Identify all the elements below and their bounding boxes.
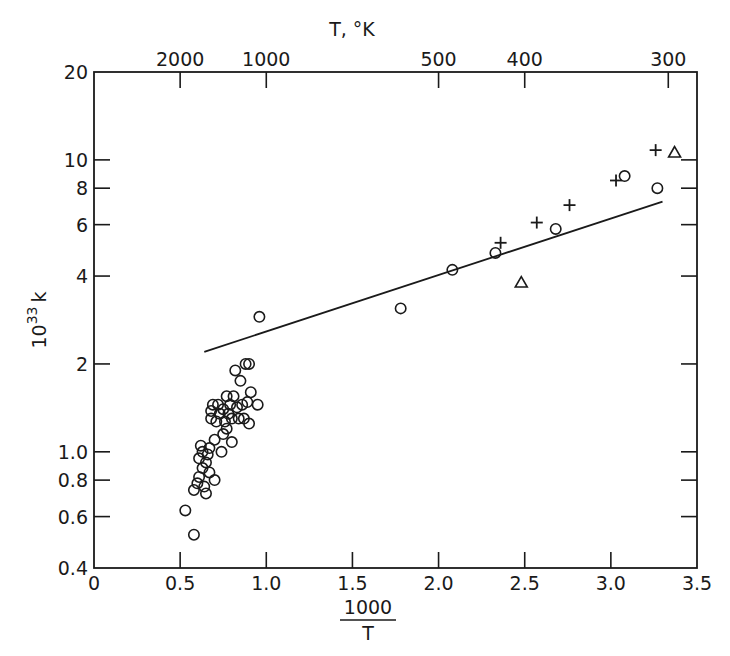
- y-tick-label: 20: [64, 61, 88, 83]
- y-axis-label: 1033k: [24, 291, 50, 348]
- circle-marker: [189, 530, 199, 540]
- circle-marker: [227, 437, 237, 447]
- svg-text:1033k: 1033k: [24, 291, 50, 348]
- top-tick-label: 500: [420, 48, 456, 70]
- circle-marker: [228, 391, 238, 401]
- plus-marker: [531, 217, 543, 229]
- circle-marker: [216, 447, 226, 457]
- top-axis-label: T, °K: [328, 18, 375, 40]
- circle-marker: [180, 505, 190, 515]
- x-label-denominator: T: [361, 622, 374, 644]
- y-label-variable: k: [28, 291, 50, 302]
- y-tick-label: 2: [76, 353, 88, 375]
- plot-border: [94, 72, 697, 568]
- data-points: [180, 144, 680, 540]
- plus-marker: [564, 199, 576, 211]
- x-tick-label: 1.5: [337, 572, 367, 594]
- x-tick-label: 3.0: [596, 572, 626, 594]
- axis-ticks: [94, 72, 697, 568]
- circle-marker: [221, 424, 231, 434]
- y-tick-label: 8: [76, 177, 88, 199]
- triangle-marker: [515, 277, 527, 288]
- triangle-marker: [669, 146, 681, 157]
- circle-marker: [551, 224, 561, 234]
- circle-marker: [652, 183, 662, 193]
- top-tick-label: 300: [650, 48, 686, 70]
- y-tick-label: 10: [64, 149, 88, 171]
- circle-marker: [490, 248, 500, 258]
- x-axis-label: 1000 T: [340, 596, 396, 644]
- x-tick-label: 0: [88, 572, 100, 594]
- x-tick-label: 2.0: [423, 572, 453, 594]
- circle-marker: [244, 359, 254, 369]
- x-tick-label: 2.5: [510, 572, 540, 594]
- x-tick-label: 3.5: [682, 572, 712, 594]
- circle-marker: [235, 376, 245, 386]
- top-tick-labels: 20001000500400300: [156, 48, 686, 70]
- regression-line: [204, 202, 662, 352]
- x-tick-label: 1.0: [251, 572, 281, 594]
- plot-frame: [94, 72, 697, 568]
- y-tick-label: 0.8: [58, 469, 88, 491]
- y-tick-label: 0.4: [58, 557, 88, 579]
- y-tick-label: 6: [76, 214, 88, 236]
- top-tick-label: 2000: [156, 48, 204, 70]
- plus-marker: [495, 237, 507, 249]
- arrhenius-chart: 00.51.01.52.02.53.03.5 0.40.60.81.024681…: [0, 0, 730, 656]
- circle-marker: [254, 312, 264, 322]
- plus-marker: [650, 144, 662, 156]
- y-label-base: 10: [28, 324, 50, 348]
- y-tick-label: 4: [76, 265, 88, 287]
- y-tick-labels: 0.40.60.81.024681020: [58, 61, 88, 579]
- circle-marker: [230, 365, 240, 375]
- y-tick-label: 1.0: [58, 441, 88, 463]
- x-tick-labels: 00.51.01.52.02.53.03.5: [88, 572, 712, 594]
- top-tick-label: 1000: [242, 48, 290, 70]
- y-tick-label: 0.6: [58, 506, 88, 528]
- circle-marker: [252, 400, 262, 410]
- circle-marker: [242, 397, 252, 407]
- circle-marker: [395, 303, 405, 313]
- circle-marker: [447, 265, 457, 275]
- circle-marker: [246, 387, 256, 397]
- top-tick-label: 400: [507, 48, 543, 70]
- x-tick-label: 0.5: [165, 572, 195, 594]
- circle-marker: [244, 418, 254, 428]
- circle-marker: [209, 475, 219, 485]
- circle-marker: [201, 488, 211, 498]
- x-label-numerator: 1000: [344, 596, 392, 618]
- y-label-exponent: 33: [24, 307, 40, 325]
- fit-line: [204, 202, 662, 352]
